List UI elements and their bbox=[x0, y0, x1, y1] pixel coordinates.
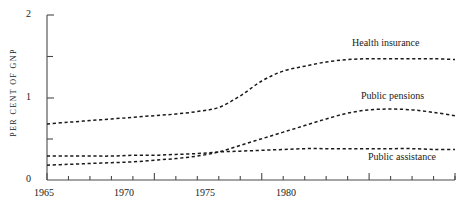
y-tick-label-2: 2 bbox=[26, 9, 31, 19]
x-tick-label-1965: 1965 bbox=[34, 188, 54, 198]
chart-container: PER CENT OF GNP 0 1 2 1965 1970 1975 198… bbox=[0, 0, 466, 207]
x-tick-label-1980: 1980 bbox=[276, 188, 296, 198]
chart-series-group bbox=[47, 59, 455, 165]
series-label-health-insurance: Health insurance bbox=[352, 38, 419, 48]
series-label-public-assistance: Public assistance bbox=[368, 152, 436, 162]
y-axis-title: PER CENT OF GNP bbox=[9, 33, 18, 153]
chart-x-ticks bbox=[47, 173, 455, 180]
y-tick-label-0: 0 bbox=[26, 174, 31, 184]
x-tick-label-1975: 1975 bbox=[195, 188, 215, 198]
series-label-public-pensions: Public pensions bbox=[361, 91, 424, 101]
chart-plot-area bbox=[0, 0, 466, 207]
y-tick-label-1: 1 bbox=[26, 92, 31, 102]
x-tick-label-1970: 1970 bbox=[114, 188, 134, 198]
